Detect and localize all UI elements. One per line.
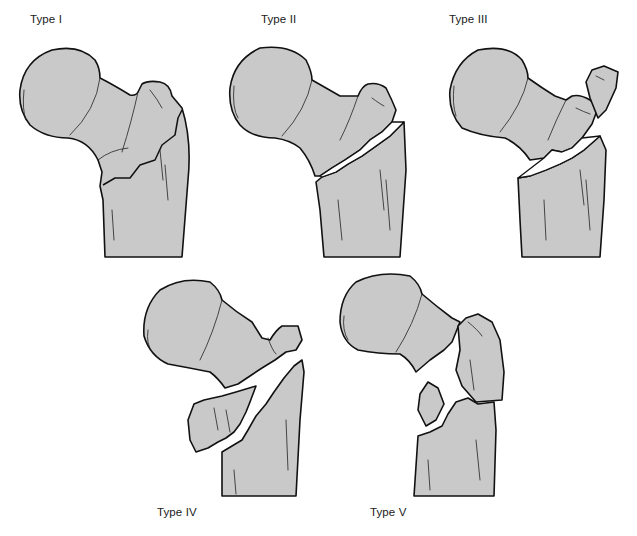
femur-fracture-illustrations (0, 0, 637, 536)
femur-type-2 (230, 47, 406, 257)
femur-type-4 (144, 280, 304, 496)
femur-type-3 (450, 48, 618, 257)
femur-type-1 (20, 48, 189, 257)
femur-type-5 (340, 274, 504, 496)
